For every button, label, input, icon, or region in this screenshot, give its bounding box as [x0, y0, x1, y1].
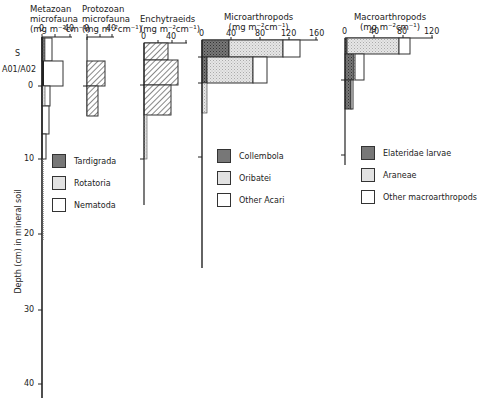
micro-legend: Collembola Oribatei Other Acari	[217, 145, 284, 211]
legend-label: Elateridae larvae	[383, 149, 451, 158]
legend-item-rotatoria: Rotatoria	[52, 172, 116, 194]
legend-item-other-macroarthropods: Other macroarthropods	[361, 186, 477, 208]
legend-item-collembola: Collembola	[217, 145, 284, 167]
legend-label: Araneae	[383, 171, 416, 180]
y-axis-label: Depth (cm) in mineral soil	[14, 172, 23, 312]
layer-s-label: S	[15, 49, 20, 58]
legend-swatch-white	[361, 190, 375, 204]
legend-swatch-dark	[217, 149, 231, 163]
macro-legend: Elateridae larvae Araneae Other macroart…	[361, 142, 477, 208]
macroarthropods-title: Macroarthropods (mg m⁻²cm⁻¹)	[354, 12, 426, 32]
y-tick-30: 30	[24, 305, 34, 314]
legend-swatch-white	[52, 198, 66, 212]
metazoan-legend: Tardigrada Rotatoria Nematoda	[52, 150, 116, 216]
protozoan-tick-0: 0	[84, 24, 89, 33]
macro-tick-0: 0	[342, 27, 347, 36]
legend-swatch-light	[217, 171, 231, 185]
protozoan-tick-40: 40	[106, 24, 116, 33]
enchytraeids-title-line1: Enchytraeids	[140, 14, 200, 24]
micro-tick-40: 40	[226, 29, 236, 38]
metazoan-panel	[42, 34, 72, 398]
legend-label: Tardigrada	[74, 157, 116, 166]
legend-label: Other macroarthropods	[383, 193, 477, 202]
legend-swatch-white	[217, 193, 231, 207]
metazoan-tick-40: 40	[64, 24, 74, 33]
macro-tick-80: 80	[397, 27, 407, 36]
legend-swatch-light	[361, 168, 375, 182]
legend-item-other-acari: Other Acari	[217, 189, 284, 211]
protozoan-title-line1: Protozoan	[82, 4, 142, 14]
legend-swatch-dark	[361, 146, 375, 160]
macro-tick-120: 120	[424, 27, 439, 36]
enchytraeids-title: Enchytraeids (mg m⁻²cm⁻¹)	[140, 14, 200, 34]
y-tick-40: 40	[24, 379, 34, 388]
legend-label: Rotatoria	[74, 179, 111, 188]
enchytraeids-panel	[140, 40, 187, 205]
macro-tick-40: 40	[369, 27, 379, 36]
legend-item-oribatei: Oribatei	[217, 167, 284, 189]
legend-item-elateridae: Elateridae larvae	[361, 142, 477, 164]
legend-item-nematoda: Nematoda	[52, 194, 116, 216]
y-tick-20: 20	[24, 229, 34, 238]
macroarthropods-title-line1: Macroarthropods	[354, 12, 426, 22]
protozoan-panel	[83, 34, 114, 116]
legend-swatch-light	[52, 176, 66, 190]
metazoan-tick-0: 0	[39, 24, 44, 33]
enchytraeids-tick-0: 0	[141, 32, 146, 41]
enchytraeids-tick-40: 40	[166, 32, 176, 41]
microarthropods-title-line1: Microarthropods	[224, 12, 293, 22]
micro-tick-0: 0	[199, 29, 204, 38]
legend-swatch-dark	[52, 154, 66, 168]
protozoan-title-line2: microfauna	[82, 14, 142, 24]
legend-item-araneae: Araneae	[361, 164, 477, 186]
micro-tick-120: 120	[281, 29, 296, 38]
macroarthropods-unit: (mg m⁻²cm⁻¹)	[354, 22, 426, 32]
micro-tick-160: 160	[309, 29, 324, 38]
legend-label: Nematoda	[74, 201, 116, 210]
layer-a-label: A01/A02	[2, 65, 36, 74]
micro-tick-80: 80	[255, 29, 265, 38]
y-tick-0: 0	[28, 81, 33, 90]
y-tick-10: 10	[24, 154, 34, 163]
legend-label: Oribatei	[239, 174, 271, 183]
legend-item-tardigrada: Tardigrada	[52, 150, 116, 172]
legend-label: Other Acari	[239, 196, 284, 205]
legend-label: Collembola	[239, 152, 284, 161]
